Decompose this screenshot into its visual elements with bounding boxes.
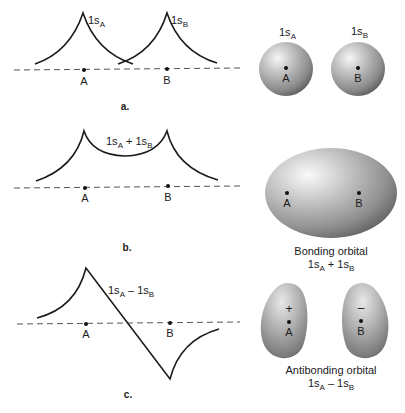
panel-c-antibonding-orbital: + – A B Antibonding orbital 1sA – 1sB	[261, 283, 389, 392]
wave-1sA	[35, 13, 133, 64]
nucleus-label-b: B	[164, 191, 171, 203]
sphere-label-a: A	[282, 72, 290, 84]
orbital-label-b: B	[355, 197, 362, 209]
antibonding-lobe-b	[342, 283, 388, 358]
internuclear-axis-b	[14, 186, 240, 188]
antibonding-lobe-a	[261, 283, 308, 358]
panel-c-wavefunction: A B 1sA – 1sB c.	[17, 268, 240, 400]
bonding-formula: 1sA + 1sB	[308, 258, 354, 273]
lobe-nucleus-b	[359, 319, 363, 323]
nucleus-dot-b	[165, 67, 169, 71]
sphere-title-1sB: 1sB	[351, 25, 368, 40]
nucleus-label-a: A	[82, 328, 90, 340]
bonding-orbital-shape	[265, 148, 397, 238]
wave-label-antibonding: 1sA – 1sB	[108, 284, 154, 299]
nucleus-dot-a	[83, 186, 87, 190]
sphere-title-1sA: 1sA	[279, 26, 297, 41]
nucleus-label-a: A	[80, 75, 88, 87]
sphere-nucleus-b	[356, 66, 360, 70]
nucleus-label-b: B	[163, 74, 170, 86]
nucleus-dot-b	[166, 184, 170, 188]
antibonding-formula: 1sA – 1sB	[308, 377, 354, 392]
lobe-label-a: A	[285, 326, 293, 338]
orbital-nucleus-b	[357, 191, 361, 195]
nucleus-dot-b	[168, 321, 172, 325]
wave-1sB	[118, 13, 217, 64]
antibonding-caption: Antibonding orbital	[285, 364, 376, 376]
lobe-nucleus-a	[287, 320, 291, 324]
phase-sign-negative: –	[358, 301, 365, 315]
lobe-label-b: B	[357, 325, 364, 337]
nucleus-label-a: A	[81, 192, 89, 204]
panel-b-wavefunction: A B 1sA + 1sB b.	[14, 131, 240, 253]
wave-label-bonding: 1sA + 1sB	[106, 135, 152, 150]
nucleus-label-b: B	[166, 327, 173, 339]
internuclear-axis-a	[14, 68, 240, 70]
nucleus-dot-a	[82, 68, 86, 72]
panel-a-wavefunctions: A B 1sA 1sB a.	[14, 13, 240, 112]
sphere-label-b: B	[354, 72, 361, 84]
orbital-nucleus-a	[285, 191, 289, 195]
panel-tag-b: b.	[123, 242, 132, 253]
orbital-diagram: A B 1sA 1sB a. 1sA 1sB A B A B 1sA + 1sB…	[0, 0, 405, 413]
phase-sign-positive: +	[285, 302, 292, 316]
panel-a-spheres: 1sA 1sB A B	[259, 25, 385, 96]
bonding-caption: Bonding orbital	[294, 245, 367, 257]
orbital-label-a: A	[283, 197, 291, 209]
wave-label-1sA: 1sA	[88, 14, 106, 29]
panel-b-bonding-orbital: A B Bonding orbital 1sA + 1sB	[265, 148, 397, 273]
nucleus-dot-a	[84, 322, 88, 326]
sphere-nucleus-a	[284, 66, 288, 70]
panel-tag-c: c.	[124, 389, 133, 400]
panel-tag-a: a.	[121, 101, 130, 112]
